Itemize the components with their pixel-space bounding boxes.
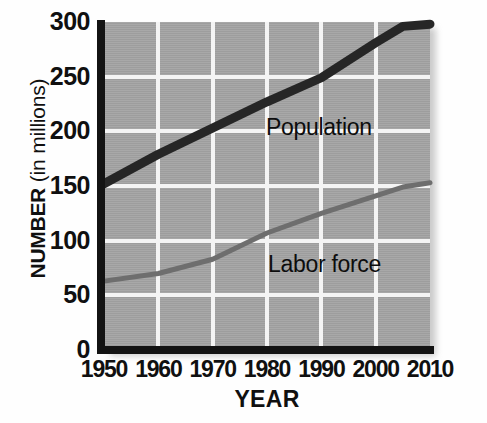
y-axis-tick-label: 300 — [20, 9, 90, 34]
x-axis-tick-label: 1960 — [135, 358, 181, 381]
y-axis-title-unit: (in millions) — [26, 79, 49, 183]
series-label-labor-force: Labor force — [268, 253, 381, 276]
x-axis-tick-label: 1990 — [298, 358, 344, 381]
x-axis-tick-label: 1970 — [189, 358, 235, 381]
x-axis-tick-label: 2010 — [407, 358, 453, 381]
y-axis-line — [97, 20, 105, 354]
y-axis-tick-label: 0 — [20, 337, 90, 362]
y-axis-title: NUMBER (in millions) — [27, 54, 48, 304]
series-line-labor-force — [104, 183, 430, 281]
series-line-population — [104, 24, 430, 184]
series-layer — [104, 22, 430, 350]
y-axis-title-bold: NUMBER — [26, 188, 49, 278]
x-axis-line — [97, 346, 434, 354]
x-axis-tick-label: 1950 — [81, 358, 127, 381]
x-axis-tick-label: 1980 — [244, 358, 290, 381]
series-label-population: Population — [266, 116, 372, 139]
chart-figure: Population Labor force 30025020015010050… — [0, 0, 487, 423]
x-axis-title: YEAR — [104, 388, 430, 411]
x-axis-tick-label: 2000 — [352, 358, 398, 381]
